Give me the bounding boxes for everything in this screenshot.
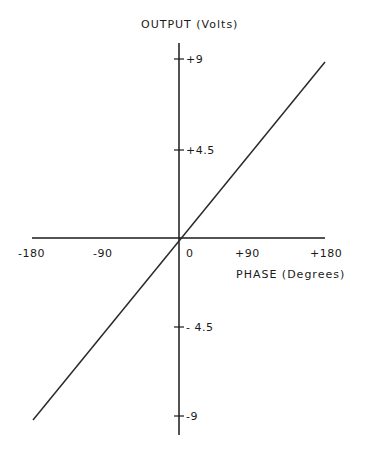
phase-output-chart: OUTPUT (Volts) PHASE (Degrees) -180 -90 … <box>0 0 370 450</box>
y-tick-label-p9: +9 <box>186 53 203 66</box>
x-tick-label-m90: -90 <box>93 247 112 260</box>
x-tick-label-p90: +90 <box>235 247 260 260</box>
x-tick-label-0: 0 <box>186 247 194 260</box>
y-axis-title: OUTPUT (Volts) <box>141 18 238 31</box>
x-axis-title: PHASE (Degrees) <box>236 268 345 281</box>
y-tick-label-m45: - 4.5 <box>186 321 213 334</box>
y-tick-label-p45: +4.5 <box>186 144 215 157</box>
x-tick-label-p180: +180 <box>310 247 342 260</box>
y-tick-label-m9: -9 <box>186 410 198 423</box>
x-tick-label-m180: -180 <box>18 247 45 260</box>
